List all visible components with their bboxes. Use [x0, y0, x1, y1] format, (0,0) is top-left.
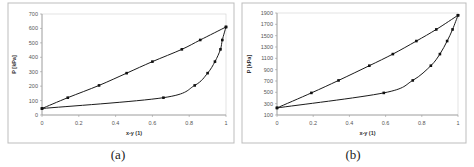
y-tick-label: 1700: [261, 21, 273, 27]
y-tick-label: 100: [29, 98, 38, 104]
caption-a: (a): [98, 147, 138, 163]
data-point-marker: [337, 79, 340, 82]
chart-b-panel: 1003005007009001100130015001700190000.20…: [237, 0, 474, 147]
y-tick-label: 1100: [261, 55, 273, 61]
y-tick-label: 100: [264, 112, 273, 118]
y-tick-label: 400: [29, 54, 38, 60]
chart-a-panel: 010020030040050060070000.20.40.60.81x-y …: [0, 0, 237, 147]
x-tick-label: 0.2: [309, 120, 317, 126]
data-point-marker: [430, 64, 433, 67]
chart-b: 1003005007009001100130015001700190000.20…: [237, 0, 474, 147]
data-point-marker: [411, 79, 414, 82]
y-axis-label: P [kPa]: [246, 55, 252, 74]
data-point-marker: [199, 39, 202, 42]
x-tick-label: 0: [275, 120, 278, 126]
data-point-marker: [225, 26, 228, 29]
x-tick-label: 1: [224, 120, 227, 126]
data-point-marker: [181, 48, 184, 51]
y-tick-label: 500: [29, 40, 38, 46]
y-tick-label: 300: [29, 69, 38, 75]
x-tick-label: 0: [40, 120, 43, 126]
data-point-marker: [221, 39, 224, 42]
data-point-marker: [310, 92, 313, 95]
x-tick-label: 0.8: [185, 120, 193, 126]
data-point-marker: [151, 60, 154, 63]
data-point-marker: [392, 53, 395, 56]
y-tick-label: 1300: [261, 44, 273, 50]
data-point-marker: [415, 40, 418, 43]
x-tick-label: 1: [456, 120, 459, 126]
data-point-marker: [457, 14, 460, 17]
y-tick-label: 300: [264, 101, 273, 107]
data-point-marker: [66, 96, 69, 99]
y-tick-label: 600: [29, 25, 38, 31]
data-point-marker: [98, 84, 101, 87]
data-point-marker: [214, 60, 217, 63]
data-point-marker: [368, 64, 371, 67]
y-tick-label: 1500: [261, 33, 273, 39]
x-tick-label: 0.2: [75, 120, 83, 126]
y-tick-label: 700: [264, 78, 273, 84]
y-tick-label: 700: [29, 11, 38, 17]
data-point-marker: [276, 107, 279, 110]
x-tick-label: 0.6: [382, 120, 390, 126]
chart-a: 010020030040050060070000.20.40.60.81x-y …: [0, 0, 237, 147]
data-point-marker: [451, 28, 454, 31]
data-point-marker: [162, 96, 165, 99]
y-tick-label: 900: [264, 67, 273, 73]
x-axis-label: x-y (1): [359, 130, 375, 136]
data-point-marker: [435, 28, 438, 31]
data-point-marker: [193, 84, 196, 87]
data-point-marker: [125, 72, 128, 75]
y-tick-label: 200: [29, 83, 38, 89]
data-point-marker: [439, 53, 442, 56]
x-axis-label: x-y (1): [126, 130, 142, 136]
y-tick-label: 500: [264, 89, 273, 95]
y-tick-label: 0: [35, 112, 38, 118]
data-point-marker: [41, 107, 44, 110]
y-tick-label: 1900: [261, 10, 273, 16]
data-point-marker: [446, 40, 449, 43]
x-tick-label: 0.4: [346, 120, 354, 126]
y-axis-label: P [kPa]: [11, 55, 17, 74]
data-point-marker: [382, 92, 385, 95]
x-tick-label: 0.4: [112, 120, 120, 126]
data-point-marker: [219, 48, 222, 51]
x-tick-label: 0.6: [149, 120, 157, 126]
caption-b: (b): [333, 147, 373, 163]
data-point-marker: [206, 72, 209, 75]
x-tick-label: 0.8: [418, 120, 426, 126]
